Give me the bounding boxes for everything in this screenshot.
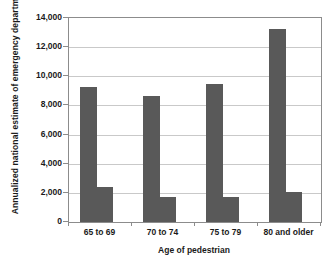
x-axis-tick-label: 70 to 74 bbox=[131, 227, 194, 237]
bar-group bbox=[195, 18, 258, 222]
x-axis-tick-mark bbox=[257, 222, 258, 226]
x-axis-title: Age of pedestrian bbox=[68, 245, 320, 255]
y-axis-tick-label: 4,000 bbox=[41, 158, 62, 168]
y-axis-tick-label: 8,000 bbox=[41, 99, 62, 109]
bar-primary bbox=[143, 96, 159, 222]
x-axis-tick-mark bbox=[194, 222, 195, 226]
bar-primary bbox=[269, 29, 285, 222]
bar-secondary bbox=[286, 192, 302, 222]
y-axis-tick-label: 6,000 bbox=[41, 129, 62, 139]
x-axis-tick-labels: 65 to 6970 to 7475 to 7980 and older bbox=[68, 227, 320, 237]
bar-group bbox=[69, 18, 132, 222]
y-axis-tick-label: 0 bbox=[57, 216, 62, 226]
bar-primary bbox=[80, 87, 96, 222]
bar-group bbox=[132, 18, 195, 222]
y-axis-tick-label: 12,000 bbox=[36, 41, 62, 51]
x-axis-tick-mark bbox=[68, 222, 69, 226]
y-axis-title-text: Annualized national estimate of emergenc… bbox=[10, 8, 21, 214]
y-axis-tick-label: 14,000 bbox=[36, 12, 62, 22]
x-axis-tick-mark bbox=[320, 222, 321, 226]
x-axis-tick-mark bbox=[131, 222, 132, 226]
bar-primary bbox=[206, 84, 222, 222]
y-axis-tick-label: 2,000 bbox=[41, 187, 62, 197]
bar-chart-figure: Annualized national estimate of emergenc… bbox=[0, 0, 332, 265]
bar-secondary bbox=[160, 197, 176, 223]
x-axis-tick-label: 65 to 69 bbox=[68, 227, 131, 237]
y-axis-tick-label: 10,000 bbox=[36, 70, 62, 80]
bar-secondary bbox=[223, 197, 239, 222]
y-axis-tick-labels: 02,0004,0006,0008,00010,00012,00014,000 bbox=[28, 11, 64, 225]
bar-secondary bbox=[97, 187, 113, 222]
bar-group bbox=[258, 18, 321, 222]
y-axis-title: Annualized national estimate of emergenc… bbox=[0, 0, 30, 222]
x-axis-tick-label: 75 to 79 bbox=[194, 227, 257, 237]
x-axis-tick-label: 80 and older bbox=[257, 227, 320, 237]
plot-area bbox=[68, 17, 322, 223]
bars-layer bbox=[69, 18, 321, 222]
